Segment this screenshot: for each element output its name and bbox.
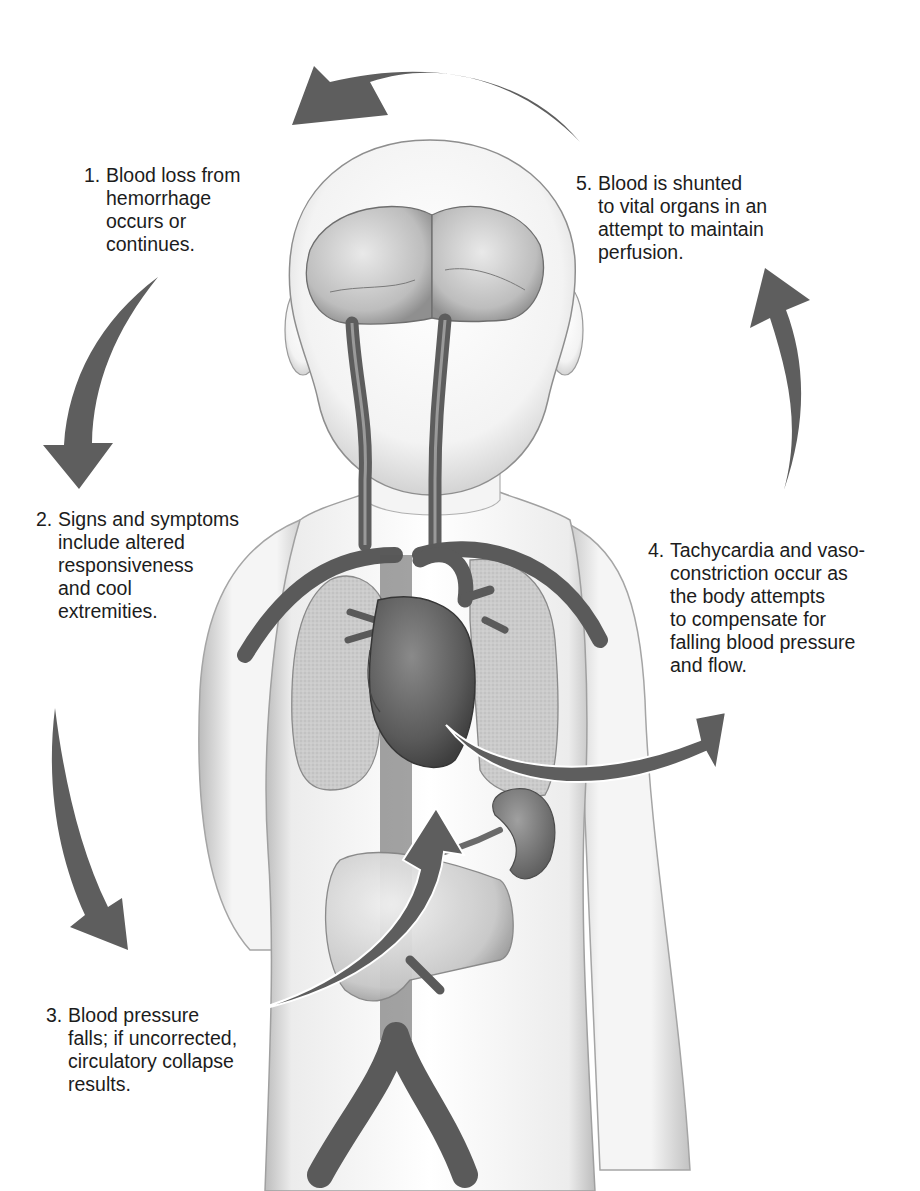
human-body xyxy=(199,140,690,1191)
step-text-line: perfusion. xyxy=(598,241,767,264)
step-text-line: continues. xyxy=(106,233,240,256)
step-1-label: 1. Blood loss from hemorrhage occurs or … xyxy=(84,164,240,256)
arrow-step2-to-step3 xyxy=(52,708,128,950)
step-text-line: results. xyxy=(68,1073,237,1096)
step-number: 3. xyxy=(46,1004,62,1027)
step-text-line: the body attempts xyxy=(670,585,865,608)
step-text-line: attempt to maintain xyxy=(598,218,767,241)
arrow-step4-to-step5 xyxy=(750,268,810,490)
step-text-line: to compensate for xyxy=(670,608,865,631)
step-text-line: falling blood pressure xyxy=(670,631,865,654)
step-text-line: and cool xyxy=(58,577,239,600)
step-text-line: Signs and symptoms xyxy=(58,508,239,531)
step-text-line: and flow. xyxy=(670,654,865,677)
arrow-step5-to-step1 xyxy=(292,66,580,142)
step-text-line: constriction occur as xyxy=(670,562,865,585)
step-text-line: extremities. xyxy=(58,600,239,623)
step-number: 2. xyxy=(36,508,52,531)
step-number: 4. xyxy=(648,539,664,562)
step-text-line: include altered xyxy=(58,531,239,554)
step-3-label: 3. Blood pressure falls; if uncorrected,… xyxy=(46,1004,237,1096)
step-2-label: 2. Signs and symptoms include altered re… xyxy=(36,508,239,623)
step-text-line: circulatory collapse xyxy=(68,1050,237,1073)
step-4-label: 4. Tachycardia and vaso- constriction oc… xyxy=(648,539,865,677)
step-text-line: hemorrhage xyxy=(106,187,240,210)
step-text-line: Blood is shunted xyxy=(598,172,767,195)
step-text-line: falls; if uncorrected, xyxy=(68,1027,237,1050)
step-text-line: Tachycardia and vaso- xyxy=(670,539,865,562)
step-text-line: Blood loss from xyxy=(106,164,240,187)
step-text-line: occurs or xyxy=(106,210,240,233)
step-5-label: 5. Blood is shunted to vital organs in a… xyxy=(576,172,767,264)
arrow-step1-to-step2 xyxy=(43,277,158,489)
step-text-line: responsiveness xyxy=(58,554,239,577)
step-text-line: Blood pressure xyxy=(68,1004,237,1027)
step-number: 5. xyxy=(576,172,592,195)
step-number: 1. xyxy=(84,164,100,187)
brain xyxy=(306,206,543,324)
step-text-line: to vital organs in an xyxy=(598,195,767,218)
